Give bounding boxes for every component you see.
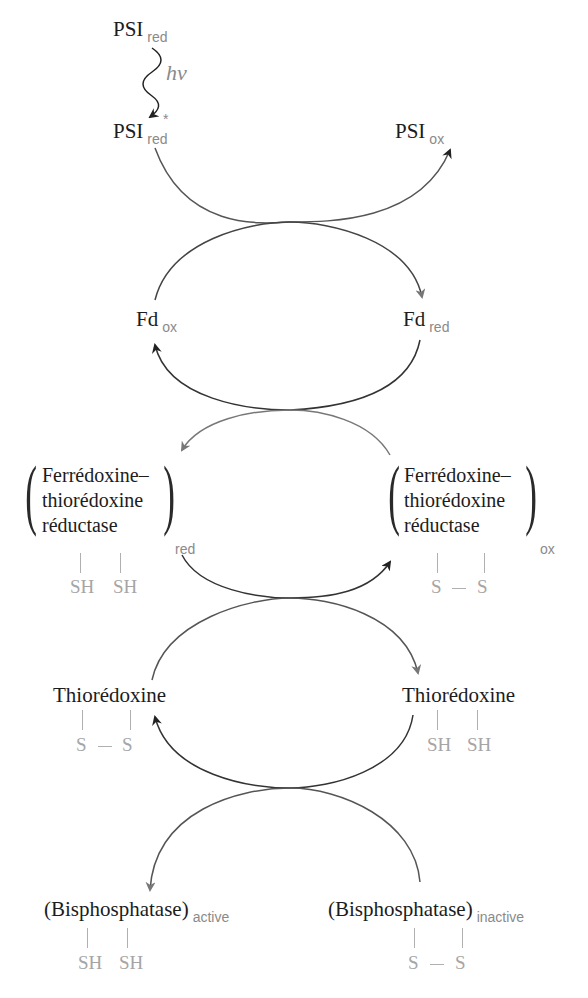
trx-ox-label: Thiorédoxine <box>53 684 166 706</box>
bpase-active-label: (Bisphosphatase)active <box>44 898 229 928</box>
ftr-ox-s-1: S <box>431 576 442 598</box>
ftr-red-sh-2: SH <box>113 576 137 598</box>
ftr-red-bond-2 <box>120 553 121 573</box>
arrow-trx-red-to-trx-ox <box>155 715 413 788</box>
arrow-trx-ox-to-trx-red <box>152 598 418 680</box>
ftr-red-line-2: thiorédoxine <box>42 488 149 513</box>
psi-excited-main: PSI <box>113 119 143 143</box>
bpase-inactive-disulfide <box>430 964 444 965</box>
ftr-red-label: Ferrédoxine– thiorédoxine réductase <box>42 463 149 538</box>
ftr-ox-label: Ferrédoxine– thiorédoxine réductase <box>404 463 511 538</box>
arrow-psi-red-to-psi-ox <box>155 148 450 223</box>
trx-red-bond-2 <box>477 710 478 730</box>
bpase-inactive-bond-2 <box>462 928 463 948</box>
fd-ox-sub: ox <box>162 319 177 335</box>
light-wavy-arrow <box>143 48 161 117</box>
bpase-active-bond-1 <box>87 928 88 948</box>
ftr-ox-bond-2 <box>484 553 485 573</box>
arrow-fd-ox-to-fd-red <box>155 222 422 300</box>
psi-ox-sub: ox <box>429 131 444 147</box>
ftr-ox-line-2: thiorédoxine <box>404 488 511 513</box>
fd-red-main: Fd <box>403 307 425 331</box>
psi-red-main: PSI <box>113 17 143 41</box>
bpase-inactive-bond-1 <box>414 928 415 948</box>
redox-cascade-diagram: PSIred hν PSIred * PSIox Fdox Fdred ( Fe… <box>0 0 588 998</box>
ftr-red-open-paren: ( <box>25 455 37 533</box>
arrow-bpase-inactive-to-active <box>150 788 420 890</box>
bpase-inactive-label: (Bisphosphatase)inactive <box>328 898 524 928</box>
bpase-inactive-s-1: S <box>408 952 419 974</box>
trx-ox-bond-1 <box>82 710 83 730</box>
ftr-red-sub: red <box>175 538 195 560</box>
psi-red-label: PSIred <box>113 18 168 48</box>
arrow-fd-red-to-fd-ox <box>155 340 420 410</box>
psi-ox-main: PSI <box>395 119 425 143</box>
fd-ox-main: Fd <box>136 307 158 331</box>
trx-red-sh-1: SH <box>427 734 451 756</box>
fd-ox-label: Fdox <box>136 308 177 338</box>
bpase-active-main: (Bisphosphatase) <box>44 897 189 921</box>
bpase-active-bond-2 <box>127 928 128 948</box>
ftr-ox-close-paren: ) <box>525 455 537 533</box>
trx-ox-bond-2 <box>130 710 131 730</box>
ftr-red-close-paren: ) <box>163 455 175 533</box>
trx-red-bond-1 <box>437 710 438 730</box>
light-hv-label: hν <box>166 62 187 84</box>
ftr-red-line-1: Ferrédoxine– <box>42 463 149 488</box>
ftr-ox-open-paren: ( <box>388 455 400 533</box>
fd-red-sub: red <box>429 319 449 335</box>
fd-red-label: Fdred <box>403 308 449 338</box>
ftr-red-sh-1: SH <box>70 576 94 598</box>
ftr-red-bond-1 <box>80 553 81 573</box>
ftr-ox-bond-1 <box>437 553 438 573</box>
bpase-active-sh-2: SH <box>119 952 143 974</box>
bpase-active-sh-1: SH <box>78 952 102 974</box>
ftr-ox-disulfide <box>452 588 466 589</box>
ftr-red-line-3: réductase <box>42 513 149 538</box>
arrow-ftr-red-to-ftr-ox <box>182 555 390 598</box>
bpase-active-sub: active <box>193 909 230 925</box>
ftr-ox-line-3: réductase <box>404 513 511 538</box>
trx-red-label: Thiorédoxine <box>402 684 515 706</box>
ftr-ox-line-1: Ferrédoxine– <box>404 463 511 488</box>
psi-red-excited-label: PSIred <box>113 120 168 150</box>
trx-ox-s-1: S <box>76 734 87 756</box>
ftr-ox-s-2: S <box>477 576 488 598</box>
arrow-ftr-ox-to-ftr-red <box>182 410 390 455</box>
ftr-ox-sub: ox <box>540 538 555 560</box>
trx-ox-s-2: S <box>122 734 133 756</box>
trx-ox-disulfide <box>98 746 112 747</box>
bpase-inactive-main: (Bisphosphatase) <box>328 897 473 921</box>
bpase-inactive-s-2: S <box>455 952 466 974</box>
trx-red-sh-2: SH <box>467 734 491 756</box>
psi-excited-sub: red <box>147 131 167 147</box>
psi-red-sub: red <box>147 29 167 45</box>
psi-ox-label: PSIox <box>395 120 444 150</box>
bpase-inactive-sub: inactive <box>477 909 524 925</box>
excited-star: * <box>163 108 168 130</box>
